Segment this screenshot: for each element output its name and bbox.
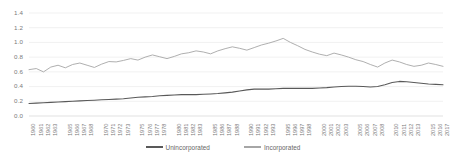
chart-legend: UnincorporatedIncorporated bbox=[0, 140, 446, 154]
x-axis-tick-label: 2012 bbox=[409, 124, 415, 136]
x-axis-tick-label: 1982 bbox=[191, 124, 197, 136]
x-axis-tick-label: 2013 bbox=[416, 124, 422, 136]
x-axis-tick-label: 2002 bbox=[336, 124, 342, 136]
x-axis-tick-label: 1995 bbox=[286, 124, 292, 136]
y-axis-tick-label: 0.6 bbox=[3, 69, 23, 75]
x-axis-tick-label: 1963 bbox=[53, 124, 59, 136]
x-axis-tick-label: 1985 bbox=[213, 124, 219, 136]
legend-swatch-icon bbox=[146, 146, 163, 147]
x-axis-tick-label: 1991 bbox=[256, 124, 262, 136]
x-axis-tick-label: 1975 bbox=[140, 124, 146, 136]
x-axis-tick-label: 2016 bbox=[438, 124, 444, 136]
x-axis-tick-label: 1981 bbox=[184, 124, 190, 136]
y-axis-tick-label: 1.0 bbox=[3, 39, 23, 45]
x-axis-tick-label: 2003 bbox=[344, 124, 350, 136]
x-axis-tick-label: 1973 bbox=[126, 124, 132, 136]
x-axis-tick-label: 2001 bbox=[329, 124, 335, 136]
x-axis-tick-label: 2015 bbox=[431, 124, 437, 136]
x-axis-tick-label: 2008 bbox=[380, 124, 386, 136]
series-line-incorporated bbox=[29, 38, 443, 71]
legend-label: Unincorporated bbox=[166, 144, 210, 151]
x-axis-tick-label: 1983 bbox=[198, 124, 204, 136]
y-axis-tick-label: 0.8 bbox=[3, 54, 23, 60]
x-axis-tick-label: 2000 bbox=[322, 124, 328, 136]
y-axis-tick-label: 0.4 bbox=[3, 83, 23, 89]
x-axis-tick-label: 1971 bbox=[111, 124, 117, 136]
x-axis-tick-label: 1978 bbox=[162, 124, 168, 136]
x-axis-tick-label: 1961 bbox=[39, 124, 45, 136]
y-axis-tick-label: 0.2 bbox=[3, 98, 23, 104]
x-axis-tick-label: 2017 bbox=[445, 124, 451, 136]
legend-entry[interactable]: Unincorporated bbox=[146, 144, 210, 151]
x-axis-tick-label: 1962 bbox=[46, 124, 52, 136]
y-axis-tick-label: 1.2 bbox=[3, 25, 23, 31]
x-axis-tick-label: 2007 bbox=[373, 124, 379, 136]
x-axis-tick-label: 1987 bbox=[227, 124, 233, 136]
x-axis-tick-label: 1972 bbox=[118, 124, 124, 136]
x-axis-tick-label: 1992 bbox=[264, 124, 270, 136]
y-axis-tick-label: 1.4 bbox=[3, 10, 23, 16]
x-axis-tick-label: 1977 bbox=[155, 124, 161, 136]
x-axis-tick-label: 1998 bbox=[307, 124, 313, 136]
x-axis-tick-label: 1990 bbox=[249, 124, 255, 136]
x-axis-tick-label: 1967 bbox=[82, 124, 88, 136]
x-axis-tick-label: 2010 bbox=[394, 124, 400, 136]
legend-swatch-icon bbox=[244, 146, 261, 147]
x-axis-tick-label: 1960 bbox=[31, 124, 37, 136]
y-axis-tick-label: 0.0 bbox=[3, 113, 23, 119]
x-axis-tick-label: 1976 bbox=[148, 124, 154, 136]
series-line-unincorporated bbox=[29, 81, 443, 103]
x-axis-tick-label: 1988 bbox=[235, 124, 241, 136]
x-axis-tick-label: 1997 bbox=[300, 124, 306, 136]
x-axis-tick-label: 1965 bbox=[68, 124, 74, 136]
x-axis-tick-label: 2006 bbox=[365, 124, 371, 136]
x-axis-tick-label: 1996 bbox=[293, 124, 299, 136]
x-axis-tick-label: 1980 bbox=[177, 124, 183, 136]
x-axis-tick-label: 2005 bbox=[358, 124, 364, 136]
series-lines bbox=[29, 38, 443, 103]
legend-entry[interactable]: Incorporated bbox=[244, 144, 300, 151]
x-axis-tick-label: 1968 bbox=[89, 124, 95, 136]
x-axis-tick-label: 1966 bbox=[75, 124, 81, 136]
legend-label: Incorporated bbox=[264, 144, 300, 151]
x-axis-tick-label: 1993 bbox=[271, 124, 277, 136]
x-axis-tick-label: 1986 bbox=[220, 124, 226, 136]
x-axis-tick-label: 1970 bbox=[104, 124, 110, 136]
x-axis-tick-label: 2011 bbox=[402, 124, 408, 136]
